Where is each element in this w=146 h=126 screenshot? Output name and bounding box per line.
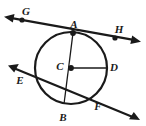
point-label-h: H	[115, 24, 124, 35]
point-label-f: F	[94, 101, 101, 112]
secant-line-ef	[8, 64, 140, 120]
point-dot-g	[19, 17, 24, 22]
geometry-figure: G A H E C D B F	[0, 0, 146, 126]
point-label-g: G	[22, 6, 30, 17]
point-label-c: C	[56, 61, 63, 72]
point-label-a: A	[70, 19, 77, 30]
secant-line-body	[14, 68, 135, 118]
tangent-right-arrowhead	[130, 36, 141, 45]
secant-left-arrowhead	[8, 64, 19, 72]
point-dot-a	[70, 30, 76, 36]
point-dot-h	[112, 35, 117, 40]
point-dot-c	[68, 65, 74, 71]
tangent-left-arrowhead	[4, 14, 15, 23]
point-label-b: B	[59, 112, 66, 123]
point-label-e: E	[16, 75, 23, 86]
point-label-d: D	[110, 62, 118, 73]
